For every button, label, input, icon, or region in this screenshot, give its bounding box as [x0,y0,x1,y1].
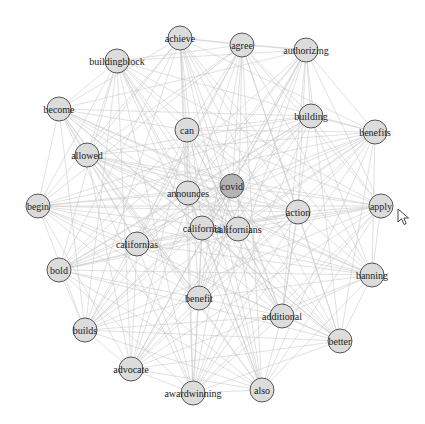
node-label: builds [73,325,98,336]
node-label: californians [214,224,261,235]
node-banning[interactable]: banning [356,263,388,287]
edge [85,330,340,341]
node-label: become [43,104,75,115]
node-additional[interactable]: additional [262,304,302,328]
node-label: can [180,125,194,136]
node-label: building [294,111,327,122]
node-label: buildingblock [89,56,145,67]
node-californias[interactable]: californias [116,232,158,256]
edge [87,132,375,155]
node-begin[interactable]: begin [26,194,50,218]
node-label: better [329,336,352,347]
node-better[interactable]: better [328,329,352,353]
edge [85,330,262,390]
node-label: announces [167,188,209,199]
node-label: begin [27,201,49,212]
node-label: advocate [113,364,149,375]
node-bold[interactable]: bold [47,258,71,282]
node-label: awardwinning [164,388,221,399]
edge [193,116,311,393]
node-label: authorizing [283,45,329,56]
node-authorizing[interactable]: authorizing [283,38,329,62]
node-label: allowed [71,150,103,161]
node-awardwinning[interactable]: awardwinning [164,381,221,405]
node-label: benefit [185,293,213,304]
edge [262,275,372,390]
node-covid[interactable]: covid [220,174,244,198]
node-also[interactable]: also [250,378,274,402]
edge [117,50,306,61]
node-label: achieve [165,33,196,44]
node-become[interactable]: become [43,97,75,121]
node-label: bold [50,265,68,276]
edge [340,132,375,341]
node-label: benefits [359,127,391,138]
node-label: action [286,207,310,218]
node-buildingblock[interactable]: buildingblock [89,49,145,73]
node-label: agree [231,40,253,51]
node-benefits[interactable]: benefits [359,120,391,144]
edge [38,109,59,206]
mouse-cursor-icon [397,208,411,226]
node-label: banning [356,270,388,281]
edge [117,61,131,369]
node-achieve[interactable]: achieve [165,26,196,50]
node-label: californias [116,239,158,250]
node-action[interactable]: action [286,200,310,224]
node-label: covid [221,181,243,192]
edge [193,298,199,393]
edge [59,109,85,330]
node-apply[interactable]: apply [369,194,393,218]
edge [180,38,193,393]
edge [38,193,188,206]
edge [131,244,137,369]
node-builds[interactable]: builds [73,318,98,342]
edge [117,61,238,229]
edge [298,212,340,341]
node-agree[interactable]: agree [230,33,254,57]
network-graph: achieveagreeauthorizingbuildingblockbeco… [0,0,425,424]
node-can[interactable]: can [175,118,199,142]
edge [131,341,340,369]
node-label: also [254,385,270,396]
node-label: additional [262,311,302,322]
node-label: apply [370,201,392,212]
